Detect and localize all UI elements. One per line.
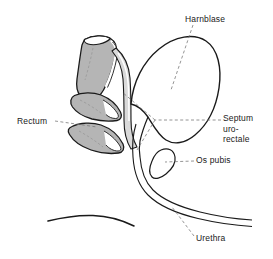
anatomical-figure: Harnblase Rectum Septum uro- rectale Os … (0, 0, 273, 259)
label-os-pubis: Os pubis (196, 155, 231, 166)
label-rectum: Rectum (17, 116, 47, 127)
rectum-segment-upper (77, 36, 117, 100)
os-pubis-structure (150, 149, 175, 179)
label-harnblase: Harnblase (185, 14, 225, 25)
label-septum-urorectale: Septum uro- rectale (223, 113, 253, 145)
os-pubis-outline (150, 149, 175, 179)
body-contour-line (48, 215, 134, 226)
bladder-neck (139, 117, 148, 157)
label-urethra: Urethra (196, 233, 225, 244)
bladder-structure (131, 37, 220, 157)
